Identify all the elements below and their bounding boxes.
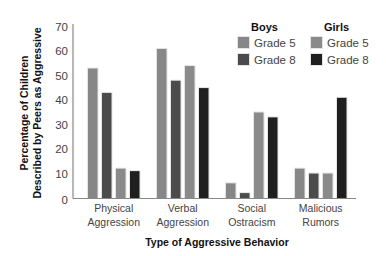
legend-swatch bbox=[238, 37, 249, 48]
x-category-label: Social bbox=[237, 202, 266, 214]
x-category-label: Rumors bbox=[302, 216, 339, 228]
y-tick-label: 70 bbox=[55, 21, 68, 33]
legend-group-heading: Boys bbox=[251, 21, 278, 33]
y-tick-label: 40 bbox=[55, 94, 68, 106]
bar bbox=[185, 66, 195, 198]
y-tick-label: 60 bbox=[55, 45, 68, 57]
y-axis-title: Percentage of ChildrenDescribed by Peers… bbox=[18, 27, 43, 198]
y-tick-label: 30 bbox=[55, 119, 68, 131]
bar bbox=[116, 169, 126, 198]
legend-item-label: Grade 8 bbox=[254, 54, 296, 66]
bar bbox=[226, 183, 236, 198]
bar bbox=[88, 69, 98, 198]
bar bbox=[240, 193, 250, 198]
y-tick-label: 50 bbox=[55, 70, 68, 82]
y-axis-title-line: Percentage of Children bbox=[18, 56, 30, 171]
legend: BoysGrade 5Grade 8GirlsGrade 5Grade 8 bbox=[237, 21, 369, 66]
y-tick-label: 20 bbox=[55, 143, 68, 155]
bar bbox=[102, 93, 112, 198]
bar-groups bbox=[87, 48, 348, 198]
x-category-label: Aggression bbox=[156, 216, 209, 228]
bar bbox=[323, 174, 333, 198]
legend-item-label: Grade 5 bbox=[327, 37, 369, 49]
bar bbox=[295, 169, 305, 198]
x-category-label: Aggression bbox=[87, 216, 140, 228]
legend-swatch bbox=[311, 54, 322, 65]
legend-group: GirlsGrade 5Grade 8 bbox=[310, 21, 369, 66]
chart-canvas: Percentage of ChildrenDescribed by Peers… bbox=[0, 0, 386, 256]
legend-item-label: Grade 8 bbox=[327, 54, 369, 66]
legend-swatch bbox=[311, 37, 322, 48]
x-axis-category-labels: PhysicalAggressionVerbalAggressionSocial… bbox=[87, 202, 342, 228]
legend-group-heading: Girls bbox=[324, 21, 349, 33]
bar bbox=[309, 174, 319, 198]
legend-item-label: Grade 5 bbox=[254, 37, 296, 49]
bar bbox=[199, 88, 209, 198]
x-category-label: Malicious bbox=[299, 202, 343, 214]
bar bbox=[157, 49, 167, 198]
y-tick-label: 0 bbox=[62, 194, 68, 206]
x-category-label: Physical bbox=[94, 202, 133, 214]
bar bbox=[268, 117, 278, 198]
bar-group bbox=[225, 112, 279, 199]
legend-swatch bbox=[238, 54, 249, 65]
legend-group: BoysGrade 5Grade 8 bbox=[237, 21, 296, 66]
bar bbox=[337, 98, 347, 198]
bar-group bbox=[294, 97, 348, 198]
bar-group bbox=[156, 48, 210, 198]
x-category-label: Verbal bbox=[168, 202, 198, 214]
x-category-label: Ostracism bbox=[228, 216, 276, 228]
x-axis-title: Type of Aggressive Behavior bbox=[145, 236, 289, 248]
bar bbox=[171, 81, 181, 198]
y-axis-ticks: 010203040506070 bbox=[55, 21, 68, 206]
bar bbox=[254, 113, 264, 199]
bar bbox=[130, 171, 140, 198]
y-tick-label: 10 bbox=[55, 168, 68, 180]
bar-group bbox=[87, 68, 141, 198]
bar-chart: Percentage of ChildrenDescribed by Peers… bbox=[0, 0, 386, 256]
y-axis-title-line: Described by Peers as Aggressive bbox=[31, 27, 43, 198]
